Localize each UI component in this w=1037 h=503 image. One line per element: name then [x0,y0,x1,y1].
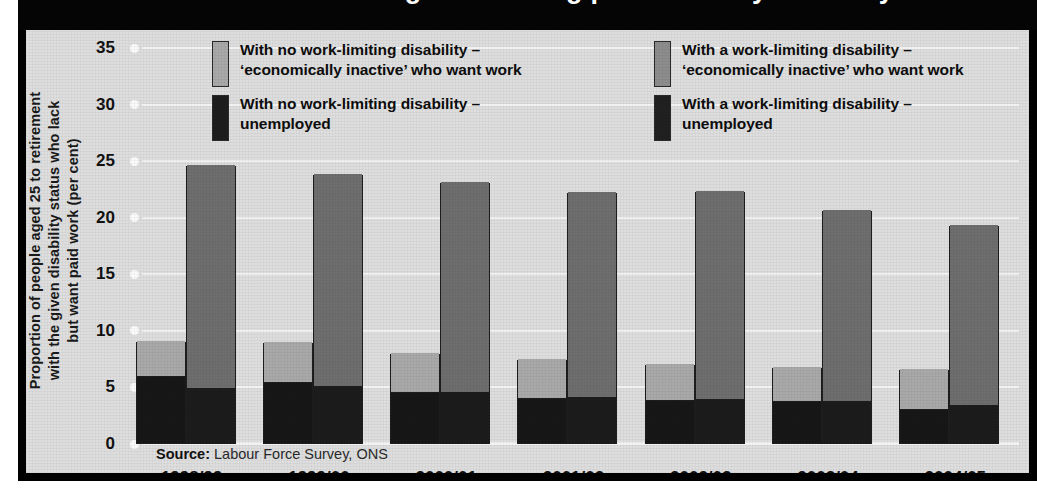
y-tick-label-20: 20 [69,209,115,226]
bar-dis-2000-01[interactable] [440,183,490,444]
bar-dis-1999-00[interactable] [313,175,363,444]
bar-segment-inactive-dis [187,165,235,388]
legend-item-3[interactable]: With a work-limiting disability –‘econom… [654,40,964,87]
source-note: Source: Labour Force Survey, ONS [156,446,388,462]
y-tick-label-5: 5 [69,378,115,395]
bar-segment-unemployed-nodis [137,376,185,443]
x-axis-label-2004-05: 2004/05 [892,468,1019,473]
bar-dis-2001-02[interactable] [567,193,617,444]
bar-segment-unemployed-dis [823,401,871,443]
bar-nodis-1999-00[interactable] [263,343,313,444]
y-axis-label-line-2: with the given disability status who lac… [46,101,62,381]
legend-item-label: With no work-limiting disability –unempl… [240,94,480,134]
bar-nodis-2002-03[interactable] [645,365,695,444]
legend-label-line-1: With a work-limiting disability – [682,41,912,58]
x-axis-label-2000-01: 2000/01 [383,468,510,473]
bar-nodis-2004-05[interactable] [899,370,949,444]
bar-segment-inactive-nodis [518,359,566,397]
chart-panel: Proportion of people aged 25 to retireme… [26,30,1029,473]
bar-segment-inactive-nodis [391,353,439,393]
legend-label-line-1: With a work-limiting disability – [682,95,912,112]
chart-figure: Lacking but wanting paid work: by disabi… [0,0,1037,503]
legend-label-line-2: unemployed [682,115,773,132]
bar-dis-1998-99[interactable] [186,166,236,444]
bar-segment-unemployed-nodis [646,400,694,443]
y-tick-label-15: 15 [69,265,115,282]
chart-legend: With no work-limiting disability –‘econo… [212,40,1012,148]
legend-item-label: With no work-limiting disability –‘econo… [240,40,522,80]
bar-nodis-2000-01[interactable] [390,354,440,445]
legend-label-line-2: ‘economically inactive’ who want work [240,61,522,78]
x-axis-label-2001-02: 2001/02 [510,468,637,473]
bar-segment-unemployed-nodis [900,409,948,443]
bar-segment-inactive-dis [441,182,489,392]
legend-item-label: With a work-limiting disability –‘econom… [682,40,964,80]
bar-segment-inactive-dis [696,191,744,399]
legend-swatch-dark [654,95,671,141]
bar-segment-inactive-dis [568,192,616,397]
x-axis-label-1999-00: 1999/00 [255,468,382,473]
bar-segment-unemployed-nodis [264,382,312,443]
bar-dis-2002-03[interactable] [695,192,745,444]
y-tick-label-10: 10 [69,322,115,339]
bar-segment-unemployed-dis [950,405,998,443]
y-tick-label-35: 35 [69,39,115,56]
bar-segment-inactive-dis [823,210,871,401]
bar-segment-unemployed-dis [441,392,489,443]
legend-label-line-1: With no work-limiting disability – [240,95,480,112]
chart-frame: Lacking but wanting paid work: by disabi… [18,0,1037,481]
bar-segment-inactive-nodis [137,341,185,376]
bar-segment-inactive-nodis [264,342,312,382]
legend-item-1[interactable]: With no work-limiting disability –‘econo… [212,40,522,87]
bar-segment-unemployed-dis [696,399,744,443]
bar-nodis-2003-04[interactable] [772,368,822,444]
x-axis-label-2002-03: 2002/03 [637,468,764,473]
bar-nodis-2001-02[interactable] [517,360,567,444]
legend-swatch-black [212,95,229,141]
bar-segment-unemployed-dis [187,388,235,443]
y-axis-label-line-1: Proportion of people aged 25 to retireme… [27,92,43,389]
chart-title: Lacking but wanting paid work: by disabi… [318,0,1018,5]
bar-segment-inactive-dis [950,225,998,405]
bar-segment-inactive-nodis [646,364,694,400]
y-tick-label-25: 25 [69,152,115,169]
bar-segment-unemployed-dis [314,386,362,443]
bar-segment-unemployed-nodis [773,401,821,443]
legend-swatch-mid-grey [654,41,671,87]
legend-label-line-1: With no work-limiting disability – [240,41,480,58]
source-label: Source: [156,446,210,462]
bar-nodis-1998-99[interactable] [136,342,186,444]
y-tick-label-0: 0 [69,435,115,452]
bar-dis-2003-04[interactable] [822,211,872,444]
bar-segment-unemployed-dis [568,397,616,443]
bar-dis-2004-05[interactable] [949,226,999,444]
legend-item-2[interactable]: With no work-limiting disability –unempl… [212,94,480,141]
chart-title-bar: Lacking but wanting paid work: by disabi… [18,0,1037,30]
x-axis-label-2003-04: 2003/04 [764,468,891,473]
bar-segment-unemployed-nodis [518,398,566,443]
legend-label-line-2: unemployed [240,115,331,132]
bar-segment-unemployed-nodis [391,392,439,443]
legend-swatch-light-grey [212,41,229,87]
legend-item-4[interactable]: With a work-limiting disability –unemplo… [654,94,912,141]
y-tick-label-30: 30 [69,96,115,113]
source-text: Labour Force Survey, ONS [210,446,388,462]
x-axis-label-1998-99: 1998/99 [128,468,255,473]
legend-label-line-2: ‘economically inactive’ who want work [682,61,964,78]
bar-segment-inactive-nodis [773,367,821,401]
legend-item-label: With a work-limiting disability –unemplo… [682,94,912,134]
bar-segment-inactive-dis [314,174,362,387]
bar-segment-inactive-nodis [900,369,948,409]
